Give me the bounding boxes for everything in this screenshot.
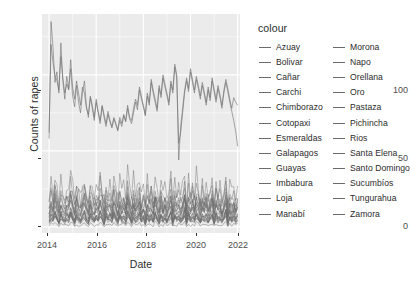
legend-label: Pastaza [350,102,381,112]
legend-line-icon [258,101,272,114]
legend-line-icon [332,207,346,220]
x-tick-mark-2022 [238,233,239,236]
legend-label: Oro [350,87,364,97]
legend-entry[interactable]: Guayas [258,161,332,176]
legend-label: Esmeraldas [276,133,322,143]
legend-label: Zamora [350,209,380,219]
legend-entry[interactable]: Carchi [258,85,332,100]
legend-label: Chimborazo [276,102,323,112]
legend-line-icon [258,40,272,53]
legend-entry[interactable]: Bolivar [258,54,332,69]
x-axis-title: Date [42,258,240,270]
legend-entry[interactable]: Imbabura [258,176,332,191]
legend-title: colour [258,22,406,34]
legend-label: Sucumbíos [350,178,393,188]
x-tick-label-2016: 2016 [77,240,117,250]
legend-line-icon [258,192,272,205]
legend-line-icon [332,70,346,83]
legend-line-icon [258,177,272,190]
legend-label: Orellana [350,72,383,82]
legend-label: Santa Elena [350,148,397,158]
legend-entry[interactable]: Morona [332,39,406,54]
legend-label: Cañar [276,72,300,82]
y-axis-title: Counts of rapes [28,34,40,194]
x-tick-mark-2020 [196,233,197,236]
legend-column-1: AzuayBolivarCañarCarchiChimborazoCotopax… [258,39,332,221]
legend-line-icon [258,70,272,83]
legend-line-icon [258,131,272,144]
x-tick-mark-2018 [146,233,147,236]
legend-line-icon [332,55,346,68]
legend-line-icon [332,177,346,190]
legend-line-icon [258,86,272,99]
legend-label: Pichincha [350,118,388,128]
legend-entry[interactable]: Manabí [258,206,332,221]
legend-line-icon [258,162,272,175]
legend-label: Galapagos [276,148,318,158]
legend-label: Manabí [276,209,305,219]
x-tick-mark-2016 [97,233,98,236]
legend-entry[interactable]: Azuay [258,39,332,54]
legend: colour AzuayBolivarCañarCarchiChimborazo… [258,22,406,221]
legend-column-2: MoronaNapoOrellanaOroPastazaPichinchaRio… [332,39,406,221]
legend-line-icon [332,101,346,114]
legend-entry[interactable]: Santo Domingo [332,161,406,176]
legend-entry[interactable]: Cañar [258,69,332,84]
y-tick-mark-100 [38,90,41,91]
legend-entry[interactable]: Esmeraldas [258,130,332,145]
legend-line-icon [258,146,272,159]
legend-entry[interactable]: Galapagos [258,145,332,160]
legend-entry[interactable]: Napo [332,54,406,69]
legend-entry[interactable]: Chimborazo [258,100,332,115]
legend-line-icon [258,55,272,68]
legend-label: Bolivar [276,57,303,67]
plot-panel [42,14,240,233]
legend-line-icon [332,116,346,129]
legend-label: Rios [350,133,367,143]
y-tick-mark-0 [38,226,41,227]
plot-lines-svg [42,14,240,233]
legend-label: Azuay [276,42,300,52]
legend-line-icon [332,40,346,53]
legend-line-icon [332,86,346,99]
legend-entry[interactable]: Pichincha [332,115,406,130]
legend-entry[interactable]: Pastaza [332,100,406,115]
x-tick-mark-2014 [47,233,48,236]
legend-label: Loja [276,193,292,203]
legend-line-icon [258,116,272,129]
y-tick-mark-50 [38,158,41,159]
x-tick-label-2020: 2020 [176,240,216,250]
legend-line-icon [258,207,272,220]
x-tick-label-2022: 2022 [218,240,258,250]
legend-entry[interactable]: Tungurahua [332,191,406,206]
x-tick-label-2014: 2014 [27,240,67,250]
legend-label: Cotopaxi [276,118,310,128]
legend-line-icon [332,162,346,175]
legend-entry[interactable]: Oro [332,85,406,100]
legend-entry[interactable]: Santa Elena [332,145,406,160]
legend-line-icon [332,131,346,144]
legend-entry[interactable]: Zamora [332,206,406,221]
legend-label: Napo [350,57,371,67]
legend-entry[interactable]: Loja [258,191,332,206]
legend-label: Carchi [276,87,301,97]
x-tick-label-2018: 2018 [126,240,166,250]
legend-entry[interactable]: Cotopaxi [258,115,332,130]
legend-entry[interactable]: Orellana [332,69,406,84]
legend-entry[interactable]: Sucumbíos [332,176,406,191]
legend-label: Santo Domingo [350,163,410,173]
legend-label: Guayas [276,163,306,173]
legend-line-icon [332,192,346,205]
legend-label: Tungurahua [350,193,397,203]
legend-entry[interactable]: Rios [332,130,406,145]
y-tick-label-0: 0 [376,221,408,231]
legend-line-icon [332,146,346,159]
legend-label: Morona [350,42,379,52]
legend-label: Imbabura [276,178,313,188]
